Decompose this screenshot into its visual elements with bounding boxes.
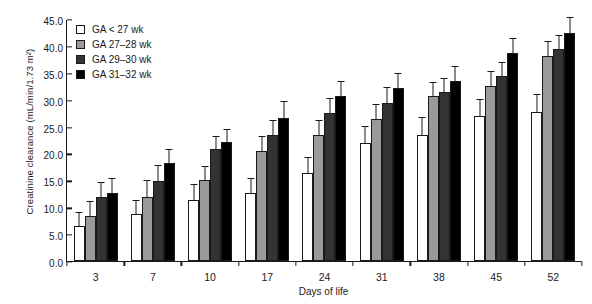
bar[interactable]: [335, 96, 346, 261]
bar[interactable]: [142, 197, 153, 261]
bar-slot: [210, 20, 221, 261]
bar-slot: [450, 20, 461, 261]
bar[interactable]: [267, 135, 278, 261]
bar[interactable]: [278, 118, 289, 261]
x-axis-tick-label: 10: [181, 271, 238, 283]
bar[interactable]: [256, 151, 267, 261]
bar[interactable]: [496, 76, 507, 261]
bar-group: 52: [525, 20, 582, 261]
legend-item[interactable]: GA 27–28 wk: [76, 37, 151, 52]
bar[interactable]: [382, 103, 393, 261]
bar[interactable]: [474, 116, 485, 261]
bar[interactable]: [96, 197, 107, 261]
bar-cluster: [245, 20, 289, 261]
error-bar-cap: [384, 87, 391, 88]
y-axis-tick: 20.0: [44, 145, 67, 163]
error-bar: [455, 67, 456, 81]
bar-slot: [531, 20, 542, 261]
error-bar: [112, 179, 113, 193]
bar[interactable]: [131, 214, 142, 261]
bar[interactable]: [107, 193, 118, 261]
bar[interactable]: [371, 119, 382, 261]
legend-item[interactable]: GA < 27 wk: [76, 22, 151, 37]
error-bar-cap: [212, 136, 219, 137]
bar[interactable]: [245, 193, 256, 261]
error-bar-cap: [373, 104, 380, 105]
error-bar-cap: [269, 120, 276, 121]
y-axis-tick: 25.0: [44, 119, 67, 137]
bar-slot: [313, 20, 324, 261]
bar-slot: [507, 20, 518, 261]
error-bar-cap: [280, 101, 287, 102]
bar-slot: [474, 20, 485, 261]
bar[interactable]: [74, 226, 85, 261]
bar-slot: [553, 20, 564, 261]
bar-cluster: [474, 20, 518, 261]
bar[interactable]: [450, 81, 461, 261]
error-bar: [90, 202, 91, 215]
bar-group: 24: [296, 20, 353, 261]
error-bar: [569, 18, 570, 33]
x-axis-tick-label: 52: [525, 271, 582, 283]
bar[interactable]: [393, 88, 404, 261]
legend-item[interactable]: GA 31–32 wk: [76, 67, 151, 82]
bar-slot: [428, 20, 439, 261]
error-bar-cap: [430, 82, 437, 83]
bar[interactable]: [428, 96, 439, 261]
bar-group: 38: [410, 20, 467, 261]
bar[interactable]: [210, 149, 221, 261]
bar[interactable]: [439, 92, 450, 261]
bar-cluster: [360, 20, 404, 261]
error-bar-cap: [304, 157, 311, 158]
bar[interactable]: [553, 49, 564, 261]
bar[interactable]: [360, 143, 371, 261]
error-bar: [547, 42, 548, 55]
bar[interactable]: [302, 173, 313, 261]
bar[interactable]: [153, 181, 164, 261]
bar-slot: [245, 20, 256, 261]
error-bar: [398, 74, 399, 88]
error-bar: [433, 83, 434, 96]
bar[interactable]: [507, 53, 518, 261]
x-axis-tick-label: 3: [67, 271, 124, 283]
bar[interactable]: [485, 86, 496, 261]
error-bar: [512, 39, 513, 53]
bar-slot: [542, 20, 553, 261]
creatinine-clearance-bar-chart: Creatinine clearance (mL/min/1.73 m²) 0.…: [0, 0, 592, 304]
error-bar: [318, 121, 319, 135]
bar[interactable]: [85, 216, 96, 261]
bar[interactable]: [564, 33, 575, 261]
error-bar-cap: [509, 38, 516, 39]
bar[interactable]: [417, 135, 428, 261]
y-axis-tick: 0.0: [49, 253, 67, 271]
bar[interactable]: [313, 135, 324, 261]
bar-slot: [371, 20, 382, 261]
error-bar: [250, 179, 251, 193]
error-bar: [193, 185, 194, 200]
bar[interactable]: [531, 112, 542, 262]
bar[interactable]: [199, 180, 210, 261]
bar-cluster: [302, 20, 346, 261]
legend-label: GA 31–32 wk: [92, 69, 151, 80]
bar[interactable]: [221, 142, 232, 261]
bar-slot: [302, 20, 313, 261]
error-bar: [226, 130, 227, 142]
y-axis-tick-label: 10.0: [44, 204, 63, 215]
x-axis-tick-mark: [524, 261, 525, 266]
bar-slot: [382, 20, 393, 261]
bar-group: 17: [239, 20, 296, 261]
error-bar-cap: [326, 98, 333, 99]
bar[interactable]: [188, 200, 199, 261]
bar-slot: [324, 20, 335, 261]
legend-item[interactable]: GA 29–30 wk: [76, 52, 151, 67]
error-bar-cap: [98, 182, 105, 183]
bar[interactable]: [164, 163, 175, 261]
bar-slot: [188, 20, 199, 261]
error-bar: [147, 181, 148, 197]
error-bar-cap: [337, 81, 344, 82]
error-bar-cap: [419, 117, 426, 118]
error-bar-cap: [487, 71, 494, 72]
bar[interactable]: [324, 113, 335, 261]
bar[interactable]: [542, 56, 553, 261]
y-axis-tick-label: 5.0: [49, 231, 63, 242]
